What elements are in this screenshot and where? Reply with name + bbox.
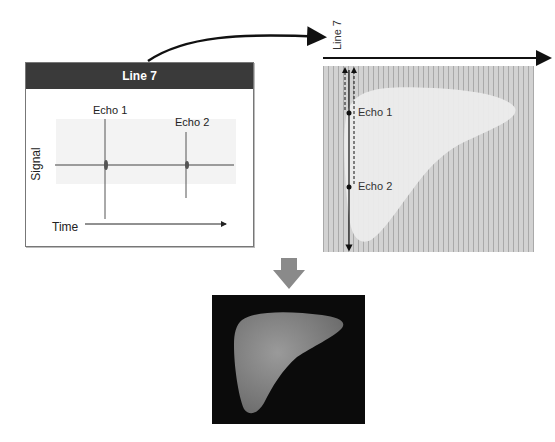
y-axis-label: Signal (29, 147, 43, 180)
grid-echo-2-label: Echo 2 (358, 180, 392, 192)
echo-2-label: Echo 2 (175, 116, 209, 128)
organ-silhouette (323, 66, 534, 252)
grid-echo-1-label: Echo 1 (358, 106, 392, 118)
down-arrow-icon (272, 258, 306, 290)
scan-line-grid: Echo 1 Echo 2 (323, 66, 534, 252)
ultrasound-image (212, 295, 365, 424)
x-axis-label: Time (52, 220, 78, 234)
a-mode-panel: Line 7 Echo 1 Echo 2 Signal Time (25, 62, 254, 247)
panel-title: Line 7 (26, 63, 253, 89)
echo-1-label: Echo 1 (93, 104, 127, 116)
scan-line-label: Line 7 (331, 20, 343, 50)
ultrasound-organ (212, 295, 365, 424)
